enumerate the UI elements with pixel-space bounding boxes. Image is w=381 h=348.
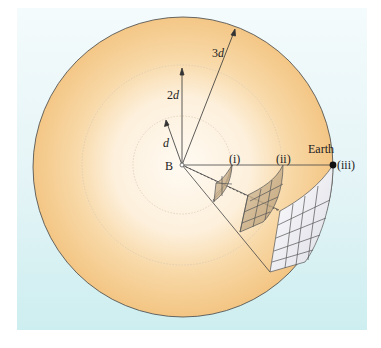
label-b: B	[165, 159, 173, 173]
label-iii: (iii)	[337, 158, 355, 172]
label-earth: Earth	[308, 142, 334, 156]
earth-dot	[330, 162, 337, 169]
label-2d: 2d	[167, 88, 180, 102]
label-i: (i)	[229, 152, 240, 166]
label-3d: 3d	[212, 46, 225, 60]
label-ii: (ii)	[276, 152, 291, 166]
label-d: d	[163, 136, 170, 150]
inverse-square-diagram: B d 2d 3d (i) (ii) (iii) Earth	[0, 0, 381, 348]
point-b	[180, 163, 184, 167]
